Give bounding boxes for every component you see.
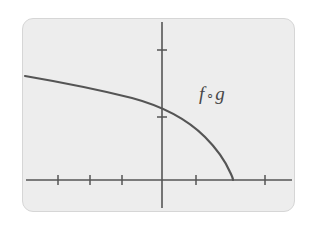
curve-label: f∘g [199,84,225,103]
plot-graphics [0,0,317,229]
curve-label-g: g [215,83,225,104]
composition-ring-icon: ∘ [205,87,216,102]
curve-label-f: f [199,83,205,104]
figure-container: f∘g [0,0,317,229]
